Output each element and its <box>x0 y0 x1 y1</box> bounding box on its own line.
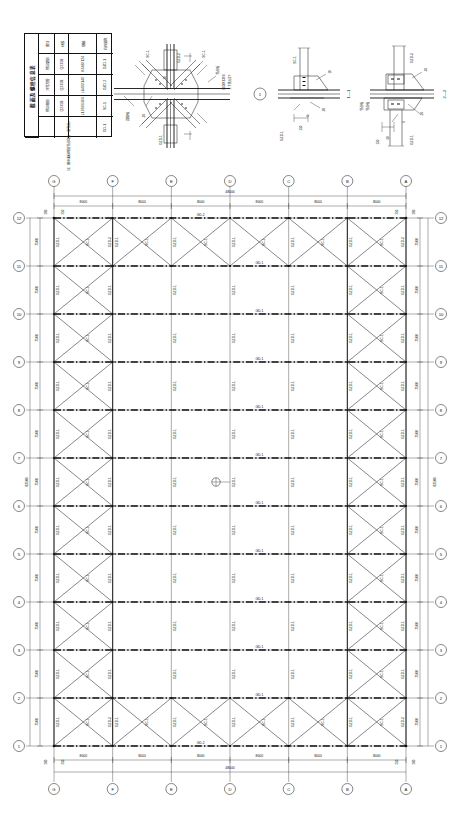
diag-label-right-1: SC-1 <box>380 286 384 294</box>
diag-label-right-8: SC-1 <box>380 622 384 630</box>
dim-right-bay-1: 7500 <box>415 286 419 294</box>
material-cell-material-0: Q235B <box>55 54 69 75</box>
grid-label-top-B: B <box>346 179 349 184</box>
dim-right-bay-4: 7500 <box>415 430 419 438</box>
sec22-label-gusset: 节点板 <box>365 101 370 111</box>
material-cell-name-1: GZD-2 <box>97 75 113 96</box>
post-label-mid-3-5: GZD-1 <box>232 477 236 487</box>
dim-right-bay-10: 7500 <box>415 718 419 726</box>
grid-label-right-11: 11 <box>439 264 444 269</box>
chord-label-row-6: GD-1 <box>255 501 263 505</box>
dim-bottom-bay-4: 8000 <box>314 754 322 758</box>
material-2-text: Q235B <box>60 101 64 112</box>
material-header-spec: 规格 <box>69 34 97 54</box>
material-cell-spec-1: □140X140 <box>69 75 97 96</box>
post2-label-right-4: GZD-1 <box>401 429 405 439</box>
material-cell-name-3: GD-1 <box>97 117 113 138</box>
section-2-2-tag: 2—2 <box>442 89 447 99</box>
material-cell-name-2: SC-1 <box>97 96 113 117</box>
grid-label-top-F: F <box>111 179 114 184</box>
post-label-left-3: GZD-1 <box>56 381 60 391</box>
detail-drawings-area: GZD-2 SC-1 SC-1 GZD-1 10 -10 连接板 节点板 L10… <box>112 30 452 158</box>
post2-label-left-1: GZD-1 <box>108 285 112 295</box>
dim-right-bay-5: 7500 <box>415 478 419 486</box>
grid-label-right-10: 10 <box>439 312 444 317</box>
node-right-9 <box>405 649 407 651</box>
dim-top-bay-1: 8000 <box>138 200 146 204</box>
name-0-text: GZD-1 <box>103 59 107 70</box>
node-bot2-1 <box>112 697 114 699</box>
node-right2-2 <box>346 313 348 315</box>
chord-label-row-8: GD-1 <box>255 597 263 601</box>
node-bot-2 <box>170 745 172 747</box>
detail1-label-10a: 10 <box>163 76 167 80</box>
post2-label-right-6: GZD-1 <box>401 525 405 535</box>
diag-label-bottom-3: SC-1 <box>262 718 266 726</box>
post-label-left-9: GZD-1 <box>56 669 60 679</box>
detail1-label-gusset: 节点板 <box>215 65 220 75</box>
node-right-3 <box>405 361 407 363</box>
diag-label-top-3: SC-1 <box>262 238 266 246</box>
diag-label-left-7: SC-1 <box>86 574 90 582</box>
spec-1-text: □140X140 <box>81 77 85 93</box>
post-label-mid-3-7: GZD-1 <box>232 573 236 583</box>
post-label-bottom-1: GZD-1 <box>115 717 119 727</box>
material-cell-material-1: Q235B <box>55 75 69 96</box>
section-1-1: 150 10 -20 6 SC-1 GZD-1 节点板 1—1 <box>278 48 364 141</box>
post2-label-right-1: GZD-1 <box>401 285 405 295</box>
node-left2-3 <box>112 361 114 363</box>
node-left2-2 <box>112 313 114 315</box>
grid-label-bottom-F: F <box>111 787 114 792</box>
post-label-mid-3-8: GZD-1 <box>232 621 236 631</box>
dim-right-bay-3: 7500 <box>415 382 419 390</box>
node-bot2-4 <box>288 697 290 699</box>
material-0-text: Q235B <box>60 59 64 70</box>
diag-label-top-4: SC-1 <box>321 238 325 246</box>
node-left-5 <box>53 457 55 459</box>
edge-dim-tl-200: 200 <box>44 209 48 214</box>
post-label-left-8: GZD-1 <box>56 621 60 631</box>
chord-label-row-10: GD-1 <box>255 693 263 697</box>
dim-left-bay-5: 7500 <box>35 478 39 486</box>
node-left-6 <box>53 505 55 507</box>
node-right-6 <box>405 505 407 507</box>
post2-label-left-10: GZD-2 <box>108 717 112 727</box>
dim-left-bay-9: 7500 <box>35 670 39 678</box>
post-label-right-10: GZD-1 <box>349 717 353 727</box>
grid-label-left-10: 10 <box>17 312 22 317</box>
post-label-mid-2-3: GZD-1 <box>173 381 177 391</box>
post2-label-left-7: GZD-1 <box>108 573 112 583</box>
name-2-text: SC-1 <box>103 102 107 110</box>
dim-left-bay-4: 7500 <box>35 430 39 438</box>
material-table-note-text: 注：图中未标明的节点均为一般节点。 <box>66 120 71 171</box>
post-label-mid-4-6: GZD-1 <box>291 525 295 535</box>
post-label-right-7: GZD-1 <box>349 573 353 583</box>
node-bot2-5 <box>346 697 348 699</box>
diag-label-right-2: SC-1 <box>380 334 384 342</box>
material-1-text: Q235B <box>60 80 64 91</box>
remark-0-text: 热轧型钢 <box>44 58 49 70</box>
post-label-right-6: GZD-1 <box>349 525 353 535</box>
diag-label-left-5: SC-1 <box>86 478 90 486</box>
node-top2-2 <box>170 265 172 267</box>
post-label-mid-2-7: GZD-1 <box>173 573 177 583</box>
post2-label-left-2: GZD-1 <box>108 333 112 343</box>
post-label-mid-2-4: GZD-1 <box>173 429 177 439</box>
node-top-1 <box>112 217 114 219</box>
dim-bottom-bay-3: 8000 <box>256 754 264 758</box>
node-left2-5 <box>112 457 114 459</box>
name-header-text: 构件名称 <box>103 38 108 50</box>
detail1-label-sc1-b: SC-1 <box>202 50 206 58</box>
sec22-label-10a: -10 <box>424 68 428 73</box>
post2-label-right-10: GZD-2 <box>401 717 405 727</box>
node-bot2-3 <box>229 697 231 699</box>
post-label-mid-4-5: GZD-1 <box>291 477 295 487</box>
post-label-mid-3-4: GZD-1 <box>232 429 236 439</box>
post-label-mid-3-1: GZD-1 <box>232 285 236 295</box>
sec22-label-gzd1: GZD-1 <box>410 135 414 145</box>
post-label-mid-4-8: GZD-1 <box>291 621 295 631</box>
post-label-top-2: GZD-1 <box>173 237 177 247</box>
dim-left-bay-2: 7500 <box>35 334 39 342</box>
material-table: 截面及螺栓信息表 备注 热轧型钢 冷弯方管 热轧角钢 材质 Q235B Q235… <box>24 33 112 151</box>
edge-dim-bl-200: 200 <box>44 759 48 764</box>
